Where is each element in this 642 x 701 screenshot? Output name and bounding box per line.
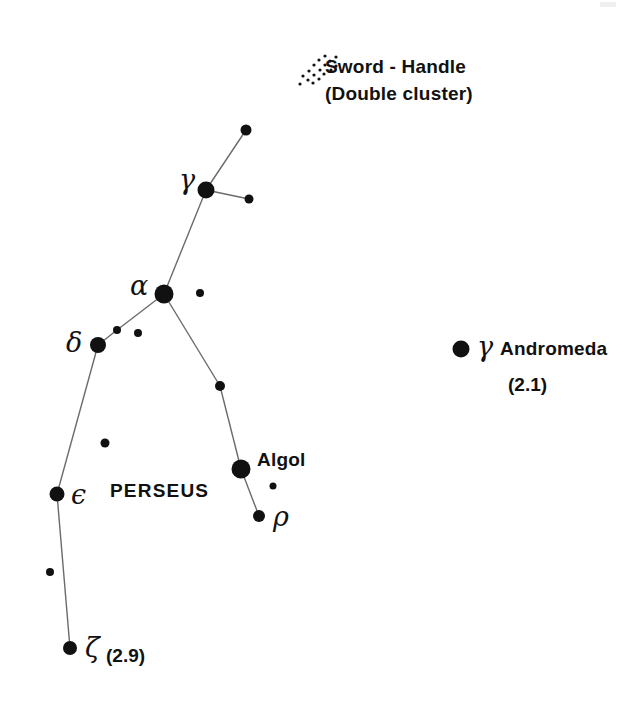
- alpha-persei-label: α: [130, 272, 148, 299]
- star-alpha-persei: [155, 285, 174, 304]
- gamma-andromedae-symbol-label: γ: [477, 333, 493, 360]
- line-epsilon-to-zeta: [57, 494, 70, 648]
- star-algol-companion: [270, 483, 277, 490]
- cluster-dot-2: [306, 78, 309, 81]
- line-upper-to-gamma: [206, 130, 246, 190]
- cluster-dot-4: [312, 73, 315, 76]
- epsilon-persei-label: ϵ: [71, 481, 86, 508]
- sword-handle-label-line1: Sword - Handle: [325, 57, 466, 76]
- cluster-dot-0: [301, 74, 304, 77]
- gamma-persei-label: γ: [179, 166, 195, 193]
- star-gamma-andromedae: [453, 341, 470, 358]
- star-perseus-upper-star: [241, 125, 252, 136]
- star-field-star-lower: [46, 568, 54, 576]
- cluster-dot-7: [318, 68, 321, 71]
- cluster-dot-3: [312, 63, 315, 66]
- line-kappa-to-algol: [220, 386, 241, 469]
- line-gamma-to-alpha: [164, 190, 206, 294]
- delta-persei-label: δ: [66, 329, 82, 356]
- star-chart-figure: Sword - Handle (Double cluster) γ α δ ϵ …: [0, 0, 642, 701]
- cluster-dot-15: [298, 82, 301, 85]
- cluster-dot-1: [307, 69, 310, 72]
- cluster-dot-5: [311, 81, 314, 84]
- star-epsilon-persei: [50, 487, 65, 502]
- zeta-persei-label: ζ: [85, 634, 100, 661]
- star-gamma-persei: [198, 182, 215, 199]
- star-rho-persei: [253, 510, 265, 522]
- gamma-andromedae-magnitude-label: (2.1): [508, 375, 547, 394]
- cluster-dot-6: [317, 58, 320, 61]
- algol-label: Algol: [257, 450, 306, 469]
- cluster-dot-8: [317, 77, 320, 80]
- gamma-andromedae-name-label: Andromeda: [500, 339, 607, 358]
- zeta-magnitude-label: (2.9): [106, 646, 145, 665]
- rho-persei-label: ρ: [273, 503, 289, 530]
- star-zeta-persei: [63, 641, 77, 655]
- line-delta-to-epsilon: [57, 345, 98, 494]
- constellation-name-label: PERSEUS: [110, 481, 209, 500]
- asterism-lines-group: [57, 130, 259, 648]
- star-alpha-companion: [196, 289, 204, 297]
- star-gamma-companion: [245, 195, 254, 204]
- star-algol: [232, 460, 251, 479]
- star-delta-companion-far: [134, 329, 142, 337]
- sword-handle-label-line2: (Double cluster): [325, 84, 473, 103]
- star-delta-persei: [90, 337, 106, 353]
- star-kappa-persei: [215, 381, 225, 391]
- star-field-star-mid: [101, 439, 110, 448]
- star-delta-companion-near: [113, 326, 121, 334]
- star-dots-group: [46, 125, 470, 656]
- line-alpha-to-kappa: [164, 294, 220, 386]
